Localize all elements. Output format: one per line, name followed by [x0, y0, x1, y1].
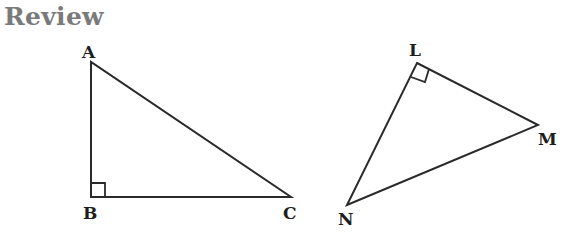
vertex-label-c: C [283, 203, 297, 223]
vertex-label-l: L [409, 40, 421, 60]
triangle-lmn: L M N [338, 40, 557, 229]
right-angle-marker-b [91, 183, 105, 197]
vertex-label-b: B [83, 203, 97, 223]
triangle-abc: A B C [81, 42, 297, 223]
vertex-label-n: N [338, 209, 354, 229]
vertex-label-m: M [538, 129, 557, 149]
triangle-lmn-outline [347, 63, 538, 205]
triangles-diagram: A B C L M N [0, 0, 582, 234]
vertex-label-a: A [81, 42, 96, 62]
triangle-abc-outline [91, 62, 291, 197]
